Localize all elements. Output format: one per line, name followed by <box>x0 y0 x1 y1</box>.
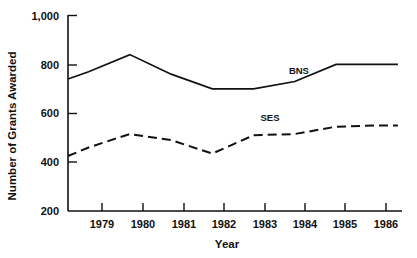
line-chart: Number of Grants Awarded 200 400 600 800… <box>0 0 417 258</box>
x-tick-label-1982: 1982 <box>212 218 236 230</box>
y-tick-label-200: 200 <box>41 205 59 217</box>
x-axis-title: Year <box>215 238 240 250</box>
y-axis-title: Number of Grants Awarded <box>6 52 18 201</box>
series-line-bns <box>68 55 398 89</box>
x-tick-label-1986: 1986 <box>374 218 398 230</box>
x-tick-label-1983: 1983 <box>253 218 277 230</box>
x-tick-label-1984: 1984 <box>293 218 318 230</box>
x-tick-label-1979: 1979 <box>90 218 114 230</box>
x-tick-label-1985: 1985 <box>333 218 357 230</box>
y-tick-label-800: 800 <box>41 59 59 71</box>
series-line-ses <box>68 125 398 156</box>
series-label-bns: BNS <box>289 65 309 76</box>
y-tick-label-1000: 1,000 <box>31 10 59 22</box>
chart-canvas: Number of Grants Awarded 200 400 600 800… <box>0 0 417 258</box>
y-tick-label-400: 400 <box>41 156 59 168</box>
series-label-ses: SES <box>261 112 280 123</box>
x-tick-label-1981: 1981 <box>172 218 196 230</box>
y-tick-label-600: 600 <box>41 107 59 119</box>
x-tick-label-1980: 1980 <box>131 218 155 230</box>
